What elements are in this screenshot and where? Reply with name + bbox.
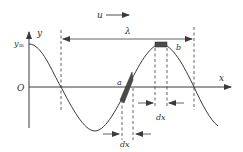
origin-label: O (17, 83, 25, 93)
wavelength-label: λ (124, 26, 131, 36)
amplitude-label: y m (13, 39, 24, 48)
velocity-label: u (97, 10, 103, 20)
velocity-indicator: u (97, 10, 129, 20)
dx-a-label: dx (120, 140, 130, 149)
wave-diagram: u y x O y m λ b dx a dx (0, 0, 243, 152)
svg-text:m: m (19, 42, 24, 48)
element-b-label: b (176, 43, 181, 52)
dx-b-label: dx (156, 113, 166, 122)
y-axis-label: y (36, 28, 43, 38)
element-b (155, 42, 167, 47)
x-axis-label: x (219, 73, 224, 83)
element-a-label: a (117, 78, 122, 87)
